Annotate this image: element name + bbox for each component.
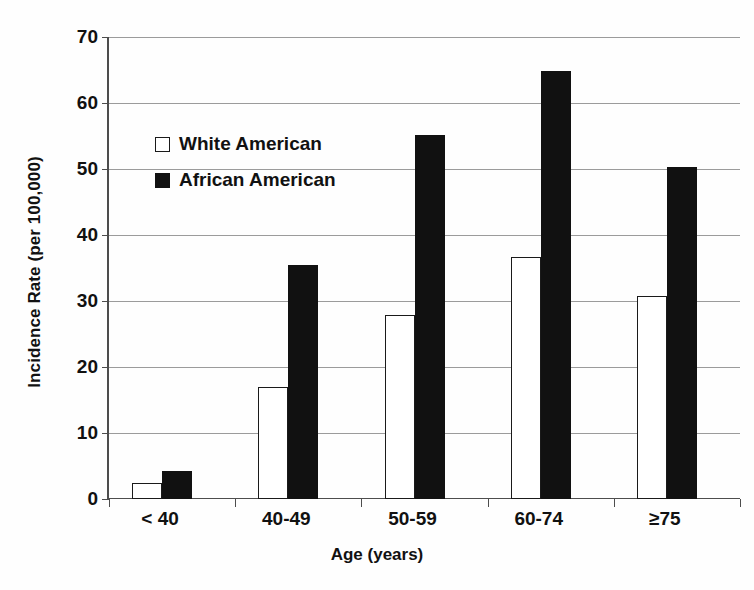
bar-group xyxy=(132,37,192,499)
y-tick-mark xyxy=(102,169,109,170)
y-tick-mark xyxy=(102,499,109,500)
bar-group xyxy=(637,37,697,499)
y-tick-label: 50 xyxy=(52,158,98,180)
bar-white-american[interactable] xyxy=(637,296,667,499)
plot-area xyxy=(107,37,740,499)
y-axis-title: Incidence Rate (per 100,000) xyxy=(25,52,45,492)
y-tick-mark xyxy=(102,301,109,302)
x-tick-mark xyxy=(614,499,615,507)
y-tick-label: 30 xyxy=(52,290,98,312)
bar-group xyxy=(511,37,571,499)
y-axis-tick-labels: 010203040506070 xyxy=(52,0,98,590)
filled-square-icon xyxy=(155,173,170,188)
y-tick-label: 20 xyxy=(52,356,98,378)
bar-chart-figure: Incidence Rate (per 100,000) 01020304050… xyxy=(0,0,754,590)
x-tick-label: < 40 xyxy=(141,508,179,530)
y-tick-label: 40 xyxy=(52,224,98,246)
legend-item-african-american: African American xyxy=(155,162,336,198)
bar-white-american[interactable] xyxy=(132,483,162,499)
bar-white-american[interactable] xyxy=(385,315,415,499)
open-square-icon xyxy=(155,137,170,152)
y-tick-label: 60 xyxy=(52,92,98,114)
x-tick-label: 60-74 xyxy=(514,508,563,530)
y-tick-label: 10 xyxy=(52,422,98,444)
y-tick-mark xyxy=(102,433,109,434)
y-tick-label: 0 xyxy=(52,488,98,510)
x-tick-label: ≥75 xyxy=(649,508,681,530)
x-tick-mark xyxy=(361,499,362,507)
bar-group xyxy=(385,37,445,499)
x-tick-label: 40-49 xyxy=(262,508,311,530)
x-tick-label: 50-59 xyxy=(388,508,437,530)
legend-label: African American xyxy=(179,169,336,191)
bar-african-american[interactable] xyxy=(541,71,571,499)
legend-label: White American xyxy=(179,133,322,155)
x-axis-title: Age (years) xyxy=(0,545,754,565)
bar-african-american[interactable] xyxy=(162,471,192,499)
y-tick-label: 70 xyxy=(52,26,98,48)
y-tick-mark xyxy=(102,37,109,38)
bar-african-american[interactable] xyxy=(667,167,697,499)
x-tick-mark xyxy=(740,499,741,507)
bar-group xyxy=(258,37,318,499)
bar-african-american[interactable] xyxy=(288,265,318,499)
y-tick-mark xyxy=(102,103,109,104)
y-tick-mark xyxy=(102,235,109,236)
x-tick-mark xyxy=(488,499,489,507)
legend-item-white-american: White American xyxy=(155,126,336,162)
y-tick-mark xyxy=(102,367,109,368)
bar-white-american[interactable] xyxy=(258,387,288,499)
x-tick-mark xyxy=(235,499,236,507)
x-tick-mark xyxy=(109,499,110,507)
chart-legend: White American African American xyxy=(155,126,336,198)
bar-white-american[interactable] xyxy=(511,257,541,499)
bar-african-american[interactable] xyxy=(415,135,445,499)
